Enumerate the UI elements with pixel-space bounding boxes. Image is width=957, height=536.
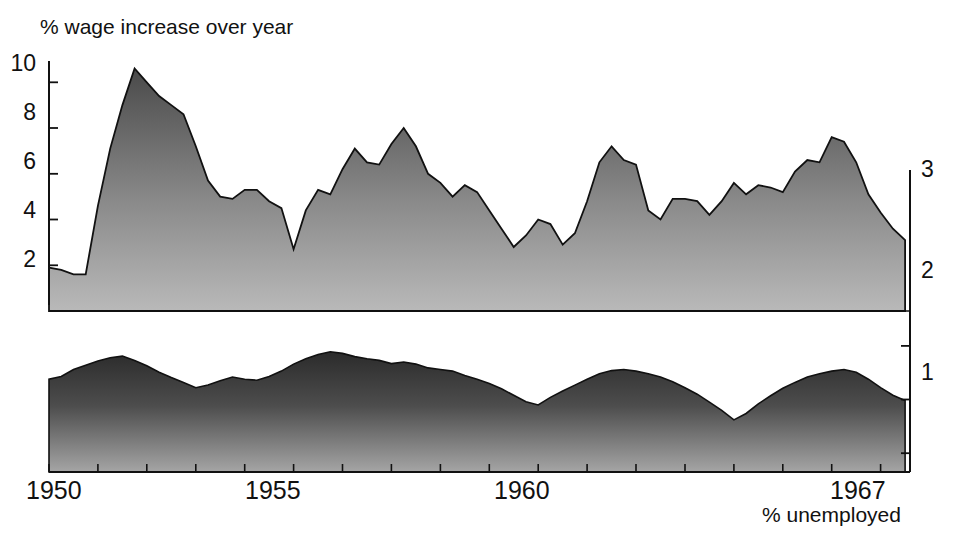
phillips-curve-chart: % wage increase over year 10 8 6 4 2 3 2… [0, 0, 957, 536]
unemployed-area [49, 352, 905, 472]
series-wage-increase [49, 69, 905, 312]
wage-increase-area [49, 69, 905, 312]
series-unemployed [49, 352, 905, 472]
y-axis-left-ticks [49, 82, 58, 265]
plot-canvas [0, 0, 957, 536]
